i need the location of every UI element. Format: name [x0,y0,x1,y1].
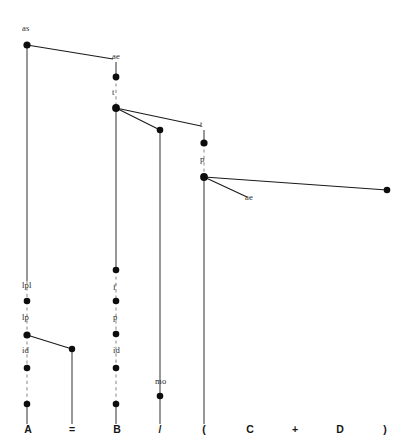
edge-e-pparen-to-right [204,177,387,190]
node-label-lbl-as-root: as [22,23,30,33]
node-label-lbl-id-a: id [22,345,30,355]
tree-node-n-a-lp[interactable] [23,331,30,338]
tree-node-n-root-as[interactable] [23,41,30,48]
tree-node-n-a-bottom[interactable] [24,401,31,408]
edge-group [27,45,387,349]
tree-node-n-t-b[interactable] [112,104,120,112]
node-label-lbl-t-paren: t [200,119,203,129]
terminal-symbol-t-A[interactable]: A [24,423,32,435]
node-label-lbl-t-b: t [112,87,115,97]
node-label-lbl-ae-right: ae [245,192,253,202]
node-label-lbl-p-paren: p [200,154,205,164]
terminal-symbol-t-lparen[interactable]: ( [202,423,206,435]
tree-node-n-b-bottom[interactable] [113,401,120,408]
tree-node-n-eq[interactable] [69,346,75,352]
tree-node-n-p-paren[interactable] [200,173,208,181]
tree-node-n-b-top[interactable] [113,267,120,274]
terminal-symbol-t-eq[interactable]: = [69,423,75,435]
node-label-lbl-p-b: p [113,312,118,322]
tree-node-n-b-f[interactable] [113,298,120,305]
tree-node-n-mo[interactable] [157,393,164,400]
edge-e-alp-to-eq [27,335,72,349]
terminal-symbol-t-C[interactable]: C [246,423,254,435]
node-label-lbl-mo: mo [155,376,166,386]
node-label-group: asaettpaelpllpidfpidmo [22,23,253,386]
tree-node-n-slash-top[interactable] [157,127,164,134]
terminal-symbol-t-slash[interactable]: / [159,423,162,435]
edge-e-root-to-ae [27,45,113,59]
terminal-symbol-t-plus[interactable]: + [292,423,298,435]
parse-tree-svg: asaettpaelpllpidfpidmo A=B/(C+D) [0,0,413,448]
node-label-lbl-lp: lp [22,312,29,322]
tree-node-n-far-right[interactable] [384,187,391,194]
node-label-lbl-lpl: lpl [22,280,32,290]
tree-node-n-a-id[interactable] [24,365,31,372]
node-label-lbl-id-b: id [113,345,121,355]
tree-node-n-b-p[interactable] [113,331,120,338]
node-label-lbl-f: f [113,282,116,292]
tree-node-n-ae-top[interactable] [113,74,120,81]
terminal-symbol-t-rparen[interactable]: ) [383,423,387,435]
edge-e-tb-to-tparen [116,108,201,126]
tree-node-n-a-lpl[interactable] [24,298,31,305]
terminal-symbol-t-D[interactable]: D [336,423,344,435]
node-label-lbl-ae-top: ae [112,51,120,61]
tree-node-n-b-id[interactable] [113,365,120,372]
terminal-group: A=B/(C+D) [24,423,387,435]
edge-e-tb-to-slash [116,108,160,130]
node-group [23,41,390,407]
tree-node-n-t-paren[interactable] [200,139,207,146]
diagram-canvas: asaettpaelpllpidfpidmo A=B/(C+D) [0,0,413,448]
terminal-symbol-t-B[interactable]: B [113,423,121,435]
